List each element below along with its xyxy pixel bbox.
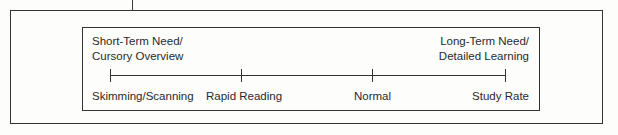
tick-normal	[372, 69, 373, 82]
left-heading-line2: Cursory Overview	[92, 49, 183, 63]
connector-line	[132, 0, 133, 10]
scale-label-rapid-reading: Rapid Reading	[206, 89, 282, 103]
scale-label-skimming: Skimming/Scanning	[92, 89, 194, 103]
tick-study-rate	[505, 69, 506, 82]
scale-label-normal: Normal	[354, 89, 391, 103]
right-heading-line1: Long-Term Need/	[440, 34, 529, 48]
continuum-axis	[110, 75, 506, 76]
scale-label-study-rate: Study Rate	[472, 89, 529, 103]
right-heading-line2: Detailed Learning	[439, 49, 529, 63]
tick-skimming	[110, 69, 111, 82]
left-heading-line1: Short-Term Need/	[92, 34, 183, 48]
tick-rapid-reading	[241, 69, 242, 82]
